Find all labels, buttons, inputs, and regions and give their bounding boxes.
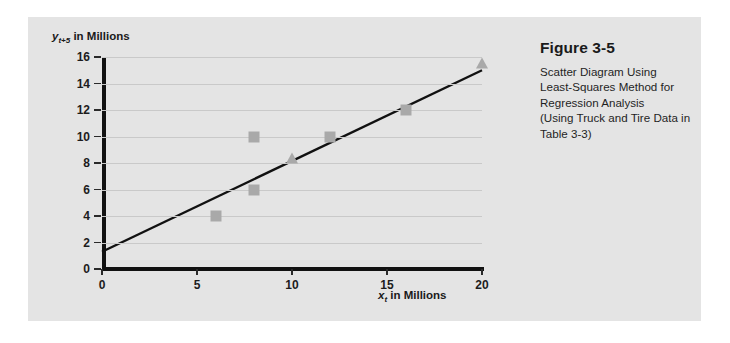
x-tick-mark: [386, 269, 388, 275]
figure-panel: yt+5 in Millions 024681012141605101520 x…: [28, 17, 701, 321]
x-tick-mark: [481, 269, 483, 275]
y-tick-label: 4: [83, 209, 90, 223]
x-axis-units: in Millions: [387, 289, 446, 301]
x-tick-label: 5: [194, 278, 201, 292]
y-tick-label: 12: [77, 103, 90, 117]
plot-region: 024681012141605101520: [102, 57, 482, 269]
x-tick-mark: [291, 269, 293, 275]
x-tick-mark: [196, 269, 198, 275]
y-tick-mark: [94, 56, 101, 58]
caption-line: Regression Analysis: [540, 95, 715, 110]
gridline-horizontal: [102, 57, 482, 58]
caption-line: Least-Squares Method for: [540, 79, 715, 94]
data-point-square: [325, 131, 336, 142]
y-tick-mark: [94, 109, 101, 111]
figure-title: Figure 3-5: [540, 39, 715, 57]
x-tick-mark: [101, 269, 103, 275]
caption-line: Table 3-3): [540, 126, 715, 141]
y-tick-mark: [94, 215, 101, 217]
y-tick-label: 8: [83, 156, 90, 170]
data-point-square: [211, 211, 222, 222]
data-point-triangle: [476, 57, 488, 68]
y-axis-units: in Millions: [70, 30, 129, 42]
chart-area: yt+5 in Millions 024681012141605101520 x…: [28, 17, 528, 321]
caption-line: (Using Truck and Tire Data in: [540, 110, 715, 125]
x-tick-label: 20: [475, 278, 488, 292]
gridline-horizontal: [102, 84, 482, 85]
figure-container: yt+5 in Millions 024681012141605101520 x…: [0, 0, 730, 343]
x-tick-label: 0: [99, 278, 106, 292]
y-tick-mark: [94, 242, 101, 244]
y-tick-label: 14: [77, 77, 90, 91]
y-tick-label: 6: [83, 183, 90, 197]
y-axis-subscript: t+5: [58, 36, 70, 45]
x-tick-label: 10: [285, 278, 298, 292]
y-tick-label: 16: [77, 50, 90, 64]
y-tick-mark: [94, 268, 101, 270]
gridline-horizontal: [102, 243, 482, 244]
x-axis-title: xt in Millions: [378, 289, 447, 304]
caption-line: Scatter Diagram Using: [540, 64, 715, 79]
data-point-triangle: [286, 152, 298, 163]
y-tick-mark: [94, 136, 101, 138]
y-tick-label: 0: [83, 262, 90, 276]
gridline-horizontal: [102, 190, 482, 191]
y-tick-mark: [94, 83, 101, 85]
y-tick-label: 10: [77, 130, 90, 144]
y-tick-label: 2: [83, 236, 90, 250]
y-tick-mark: [94, 162, 101, 164]
gridline-horizontal: [102, 216, 482, 217]
data-point-square: [401, 105, 412, 116]
y-axis-title: yt+5 in Millions: [52, 30, 130, 45]
gridline-horizontal: [102, 110, 482, 111]
data-point-square: [249, 131, 260, 142]
y-tick-mark: [94, 189, 101, 191]
data-point-square: [249, 184, 260, 195]
gridline-horizontal: [102, 137, 482, 138]
figure-caption: Figure 3-5 Scatter Diagram Using Least-S…: [540, 39, 715, 141]
